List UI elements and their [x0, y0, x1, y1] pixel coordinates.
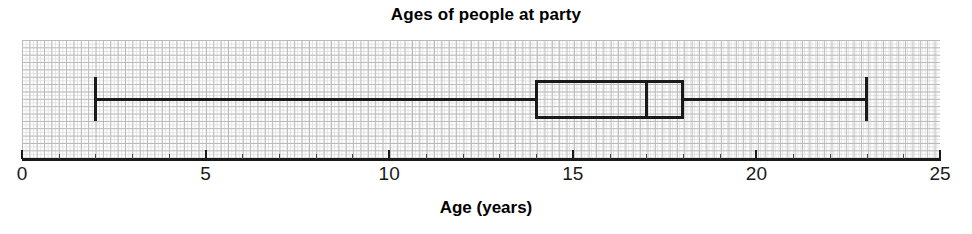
x-axis-line	[22, 158, 941, 161]
whisker-right-line	[683, 98, 867, 101]
box-top-edge	[535, 80, 685, 83]
x-axis-minor-tick	[132, 154, 133, 159]
x-axis-tick-label: 15	[543, 163, 603, 185]
x-axis-tick-label: 5	[176, 163, 236, 185]
box-q1-edge	[535, 80, 538, 119]
x-axis-minor-tick	[169, 154, 170, 159]
median-line	[645, 80, 648, 119]
x-axis-major-tick	[572, 150, 574, 159]
x-axis-minor-tick	[683, 154, 684, 159]
whisker-right-cap	[865, 77, 868, 121]
x-axis-major-tick	[755, 150, 757, 159]
x-axis-minor-tick	[536, 154, 537, 159]
x-axis-minor-tick	[95, 154, 96, 159]
x-axis-minor-tick	[830, 154, 831, 159]
x-axis-tick-label: 10	[359, 163, 419, 185]
x-axis-minor-tick	[463, 154, 464, 159]
boxplot-series-group	[22, 40, 940, 158]
x-axis-major-tick	[205, 150, 207, 159]
x-axis-minor-tick	[242, 154, 243, 159]
whisker-left-cap	[94, 77, 97, 121]
x-axis-title: Age (years)	[0, 198, 972, 218]
x-axis-minor-tick	[316, 154, 317, 159]
x-axis-minor-tick	[279, 154, 280, 159]
x-axis-tick-label: 0	[0, 163, 52, 185]
chart-title: Ages of people at party	[0, 5, 972, 25]
x-axis-minor-tick	[720, 154, 721, 159]
x-axis-minor-tick	[426, 154, 427, 159]
x-axis-major-tick	[21, 150, 23, 159]
x-axis-minor-tick	[646, 154, 647, 159]
x-axis-minor-tick	[499, 154, 500, 159]
x-axis-tick-label: 20	[726, 163, 786, 185]
x-axis-minor-tick	[867, 154, 868, 159]
boxplot-chart: Ages of people at party 0510152025 Age (…	[0, 0, 972, 234]
x-axis-minor-tick	[793, 154, 794, 159]
whisker-left-line	[95, 98, 536, 101]
x-axis-minor-tick	[903, 154, 904, 159]
x-axis-major-tick	[939, 150, 941, 159]
x-axis-minor-tick	[610, 154, 611, 159]
x-axis-minor-tick	[352, 154, 353, 159]
box-bottom-edge	[535, 116, 685, 119]
box-q3-edge	[681, 80, 684, 119]
x-axis-major-tick	[388, 150, 390, 159]
x-axis-minor-tick	[59, 154, 60, 159]
x-axis-tick-label: 25	[910, 163, 970, 185]
